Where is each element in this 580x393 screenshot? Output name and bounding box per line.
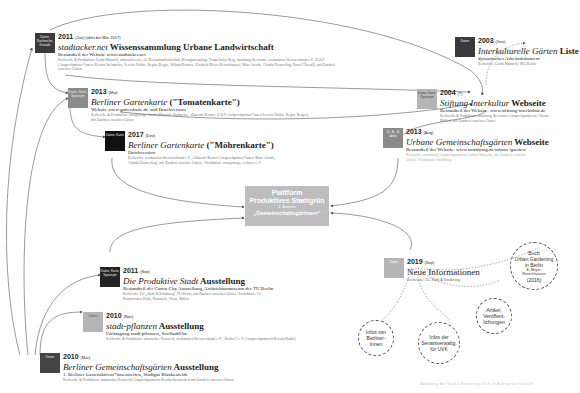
platform-box[interactable]: Plattform Produktives Stadtgrün 1. Baust… (245, 186, 329, 226)
title-bold-stadtpflanzen: Ausstellung (159, 321, 204, 331)
date-gemeinschaftsgaerten: (Mär) (81, 355, 91, 360)
title-bold-produktive: Ausstellung (200, 276, 245, 286)
title-bold-interkultur: Webseite (511, 98, 546, 108)
footer-credit: Abbildung: AG Stadt & Ernährung 2019, im… (420, 381, 534, 386)
tag-interkultur: Daten, Karte, Synonym (417, 89, 437, 109)
tag-stadtpflanzen: Daten (83, 312, 103, 332)
details-produktive: Recherche: FG „Stadt & Ernährung“ TU Ber… (123, 292, 273, 301)
title-bold-urbane: Webseite (514, 137, 549, 147)
title-bold-stadtacker: Wissenssammlung Urbane Landwirtschaft (110, 42, 274, 52)
title-italic-interkultur: Stiftung Interkultur (440, 98, 509, 108)
tag-produktive: Daten, Karte, Synonym (100, 267, 120, 287)
year-interkultur: 2004 (440, 89, 456, 96)
title-italic-moehrenkarte: Berliner Gartenkarte (128, 140, 204, 150)
date-stadtacker: (Jun) (aktiv bis Mär 2017) (75, 35, 120, 40)
title-italic-stadtacker: stadtacker.net (58, 42, 108, 52)
title-bold-tomatenkarte: ("Tomatenkarte") (169, 97, 239, 107)
tag-stadtacker: Daten, Recherche, Kontakt (35, 33, 55, 53)
details-interkulturelle: Recherche: Gerda Münnich, IKG Berlin (478, 62, 580, 67)
year-produktive: 2011 (123, 267, 138, 274)
year-urbane: 2013 (406, 128, 422, 135)
bubble-berliner[interactable]: Infos von Berliner- Innen (358, 320, 394, 356)
year-stadtpflanzen: 2010 (106, 312, 122, 319)
tag-neue: Daten (384, 258, 404, 278)
details-moehrenkarte: Recherche: workstation Ideenwerkstatt e.… (128, 156, 278, 165)
platform-line4: „Gemeinschaftsgärtnern“ (245, 209, 329, 217)
title-bold-moehrenkarte: ("Möhrenkarte") (206, 140, 273, 150)
platform-line2: Produktives Stadtgrün (245, 197, 329, 205)
details-urbane: Recherche: anstiftung (Ansprechpartnerin… (406, 153, 526, 162)
tag-tomatenkarte: Daten, Karte, Synonym (68, 88, 88, 108)
date-tomatenkarte: (Mai) (109, 90, 118, 95)
title-italic-gemeinschaftsgaerten: Berliner Gemeinschaftsgärten (63, 362, 172, 372)
tag-gemeinschaftsgaerten: Daten (40, 353, 60, 373)
title-italic-tomatenkarte: Berliner Gartenkarte (91, 97, 167, 107)
year-moehrenkarte: 2017 (128, 131, 144, 138)
details-gemeinschaftsgaerten: Recherche & Produktion: urbanacker Netzw… (63, 378, 323, 383)
year-tomatenkarte: 2013 (91, 88, 107, 95)
tag-urbane: D, K, S aktiv (383, 128, 403, 148)
date-stadtpflanzen: (Nov) (124, 314, 134, 319)
subtitle-neue: Recherche: AG Stadt & Ernährung (407, 277, 507, 283)
year-stadtacker: 2011 (58, 33, 73, 40)
title-italic-urbane: Urbane Gemeinschaftsgärten (406, 137, 512, 147)
year-neue: 2019 (407, 258, 423, 265)
date-neue: (Sep) (425, 260, 435, 265)
details-stadtpflanzen: Recherche & Produktion: urbanacker Netzw… (106, 337, 296, 342)
title-italic-produktive: Die Produktive Stadt (123, 276, 198, 286)
platform-line1: Plattform (245, 189, 329, 197)
tag-moehrenkarte: Daten, Karte (105, 131, 125, 151)
details-stadtacker: Recherche & Produktion: Gerda Münnich, u… (58, 58, 338, 72)
title-italic-interkulturelle: Interkulturelle Gärten (478, 46, 557, 56)
date-interkultur: (?) (458, 91, 463, 96)
details-interkultur: Recherche & Produktion: anstiftung & ert… (440, 114, 560, 123)
date-interkulturelle: (Juni) (496, 39, 506, 44)
title-bold-gemeinschaftsgaerten: Ausstellung (174, 362, 219, 372)
date-moehrenkarte: (Dez) (146, 133, 156, 138)
tag-interkulturelle: Daten (455, 37, 475, 57)
title-italic-stadtpflanzen: stadt-pflanzen (106, 321, 157, 331)
year-interkulturelle: 2003 (478, 37, 494, 44)
date-urbane: (Aug) (424, 130, 434, 135)
bubble-artikel[interactable]: Artikel, Veröffent- lichungen (476, 298, 512, 334)
date-produktive: (Sep) (140, 269, 150, 274)
title-bold-interkulturelle: Liste (560, 46, 579, 56)
bubble-buch[interactable]: Buch Urban Gardening in Berlin E. Meyer-… (510, 242, 558, 290)
title-neue: Neue Informationen (407, 267, 507, 277)
year-gemeinschaftsgaerten: 2010 (63, 353, 79, 360)
bubble-senat[interactable]: Infos der Senatsverwaltg. für UVK (418, 322, 460, 364)
details-tomatenkarte: Recherche & Produktion: orangotango, Ger… (91, 113, 311, 122)
